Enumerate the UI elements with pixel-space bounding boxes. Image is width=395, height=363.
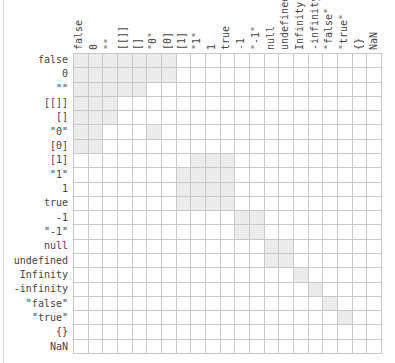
- matrix-cell: [366, 267, 381, 281]
- column-header: {}: [353, 0, 368, 52]
- matrix-cell: [190, 310, 205, 324]
- matrix-cell: [161, 110, 176, 124]
- column-label: []: [133, 38, 143, 50]
- matrix-cell: [322, 239, 337, 253]
- matrix-cell: [366, 224, 381, 238]
- matrix-cell: [73, 267, 88, 281]
- matrix-cell: [161, 82, 176, 96]
- matrix-cell: [132, 167, 147, 181]
- matrix-cell-equal: [278, 239, 293, 253]
- matrix-cell: [161, 324, 176, 338]
- matrix-cell: [249, 324, 264, 338]
- matrix-cell: [278, 110, 293, 124]
- matrix-cell: [278, 324, 293, 338]
- matrix-cell: [132, 153, 147, 167]
- matrix-cell: [234, 53, 249, 67]
- matrix-cell: [146, 182, 161, 196]
- matrix-cell: [102, 167, 117, 181]
- matrix-cell: [352, 239, 367, 253]
- matrix-cell: [205, 310, 220, 324]
- matrix-cell: [132, 296, 147, 310]
- matrix-cell-equal: [88, 96, 103, 110]
- matrix-cell: [264, 196, 279, 210]
- matrix-cell: [190, 324, 205, 338]
- matrix-cell: [264, 110, 279, 124]
- matrix-cell: [220, 124, 235, 138]
- matrix-cell: [234, 182, 249, 196]
- matrix-cell: [234, 282, 249, 296]
- matrix-cell-equal: [73, 53, 88, 67]
- matrix-cell: [352, 324, 367, 338]
- matrix-cell: [205, 96, 220, 110]
- column-header: [[]]: [117, 0, 132, 52]
- matrix-cell: [117, 153, 132, 167]
- row-label: null: [0, 239, 68, 253]
- matrix-cell: [132, 310, 147, 324]
- matrix-cell: [308, 339, 323, 353]
- matrix-cell: [308, 324, 323, 338]
- matrix-cell: [146, 196, 161, 210]
- matrix-cell: [249, 82, 264, 96]
- matrix-cell-equal: [73, 82, 88, 96]
- column-label: "": [104, 38, 114, 50]
- matrix-cell: [234, 196, 249, 210]
- matrix-cell: [220, 296, 235, 310]
- column-label: Infinity: [295, 2, 305, 50]
- column-label: {}: [354, 38, 364, 50]
- matrix-cell: [132, 339, 147, 353]
- matrix-cell: [352, 182, 367, 196]
- matrix-cell: [205, 282, 220, 296]
- matrix-cell: [190, 139, 205, 153]
- matrix-cell: [322, 196, 337, 210]
- matrix-cell: [161, 339, 176, 353]
- matrix-cell: [176, 239, 191, 253]
- matrix-cell: [73, 339, 88, 353]
- matrix-cell: [278, 196, 293, 210]
- matrix-cell: [146, 267, 161, 281]
- matrix-cell: [161, 296, 176, 310]
- matrix-cell: [293, 167, 308, 181]
- matrix-cell: [337, 253, 352, 267]
- matrix-cell: [117, 210, 132, 224]
- matrix-cell: [205, 139, 220, 153]
- matrix-cell: [308, 224, 323, 238]
- matrix-cell-equal: [132, 82, 147, 96]
- matrix-cell: [249, 139, 264, 153]
- matrix-cell: [366, 324, 381, 338]
- matrix-cell: [73, 310, 88, 324]
- matrix-cell: [73, 224, 88, 238]
- matrix-cell: [278, 124, 293, 138]
- matrix-cell: [176, 224, 191, 238]
- matrix-cell: [278, 153, 293, 167]
- matrix-cell-equal: [117, 82, 132, 96]
- matrix-cell: [234, 239, 249, 253]
- row-label: [0]: [0, 139, 68, 153]
- matrix-cell: [146, 224, 161, 238]
- matrix-cell: [264, 267, 279, 281]
- matrix-cell: [132, 210, 147, 224]
- matrix-cell-equal: [132, 53, 147, 67]
- matrix-cell: [220, 82, 235, 96]
- column-label: "-1": [251, 26, 261, 50]
- matrix-cell-equal: [205, 182, 220, 196]
- matrix-cell: [117, 282, 132, 296]
- matrix-cell: [117, 224, 132, 238]
- matrix-cell: [308, 82, 323, 96]
- matrix-cell: [176, 253, 191, 267]
- matrix-cell: [205, 296, 220, 310]
- matrix-cell: [146, 96, 161, 110]
- row-label: 1: [0, 182, 68, 196]
- matrix-cell: [234, 167, 249, 181]
- matrix-cell: [337, 182, 352, 196]
- matrix-cell: [146, 296, 161, 310]
- matrix-cell: [366, 282, 381, 296]
- matrix-cell: [308, 182, 323, 196]
- matrix-cell: [88, 153, 103, 167]
- matrix-cell: [146, 210, 161, 224]
- matrix-cell-equal: [117, 53, 132, 67]
- matrix-cell: [337, 224, 352, 238]
- matrix-cell: [352, 310, 367, 324]
- matrix-cell: [220, 239, 235, 253]
- column-label: undefined: [280, 0, 290, 50]
- column-label: "1": [192, 32, 202, 50]
